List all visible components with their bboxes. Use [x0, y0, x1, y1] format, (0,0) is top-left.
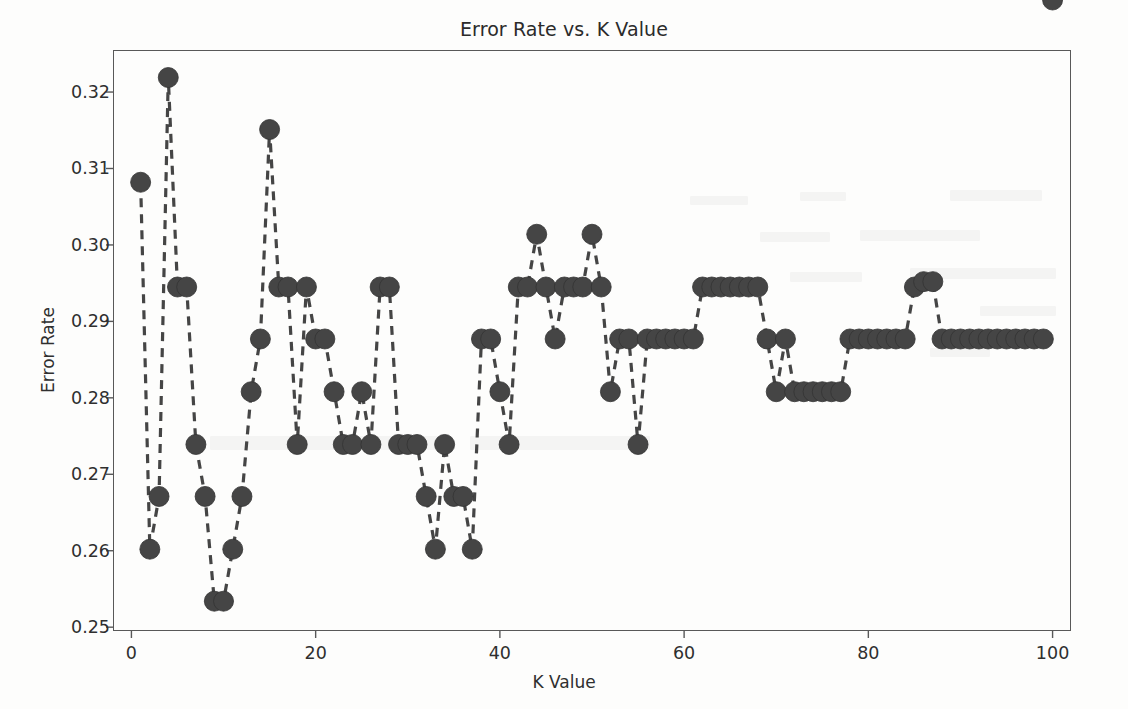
x-tick-label: 20 — [276, 643, 356, 663]
x-tick-label: 60 — [644, 643, 724, 663]
x-axis-label: K Value — [0, 672, 1128, 692]
chart-figure: Error Rate vs. K Value 0.250.260.270.280… — [0, 0, 1128, 709]
y-tick-label: 0.25 — [38, 617, 110, 637]
y-tick-label: 0.32 — [38, 82, 110, 102]
data-point — [1043, 0, 1063, 10]
x-tick-label: 100 — [1013, 643, 1093, 663]
x-tick-label: 40 — [460, 643, 540, 663]
x-tick-label: 0 — [91, 643, 171, 663]
y-axis-label: Error Rate — [38, 260, 58, 440]
plot-area — [113, 50, 1071, 631]
chart-title: Error Rate vs. K Value — [0, 18, 1128, 40]
y-tick-label: 0.26 — [38, 541, 110, 561]
x-tick-label: 80 — [828, 643, 908, 663]
y-tick-label: 0.31 — [38, 158, 110, 178]
y-tick-label: 0.30 — [38, 235, 110, 255]
y-tick-label: 0.27 — [38, 464, 110, 484]
